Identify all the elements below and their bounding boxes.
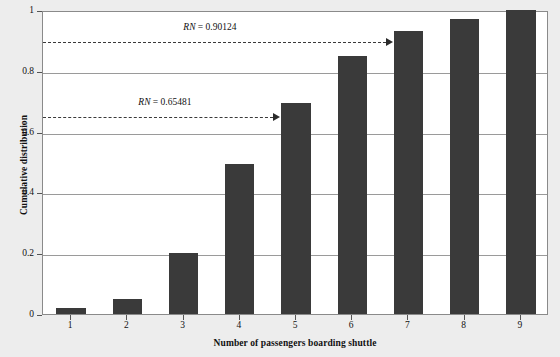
y-tick-label-0.4: 0.4 <box>4 187 34 197</box>
bar-2 <box>113 299 142 314</box>
plot-area: RN = 0.90124RN = 0.65481 <box>42 11 548 315</box>
rn-upper-label: RN = 0.90124 <box>183 22 236 32</box>
x-tick-label-3: 3 <box>163 320 203 330</box>
bar-9 <box>506 10 535 314</box>
bar-5 <box>281 103 310 314</box>
x-tick-label-7: 7 <box>387 320 427 330</box>
x-tick-label-9: 9 <box>500 320 540 330</box>
cumulative-distribution-chart: Cumulative distribution 00.20.40.60.81 R… <box>0 0 560 357</box>
bar-8 <box>450 19 479 314</box>
rn-lower-label: RN = 0.65481 <box>138 97 191 107</box>
x-tick-label-5: 5 <box>275 320 315 330</box>
y-tick-0 <box>37 315 42 316</box>
bar-1 <box>56 308 85 314</box>
y-tick-label-1: 1 <box>4 5 34 15</box>
bar-4 <box>225 164 254 314</box>
x-tick-label-4: 4 <box>219 320 259 330</box>
rn-lower-dashed-line <box>43 117 273 118</box>
x-tick-label-2: 2 <box>106 320 146 330</box>
bar-3 <box>169 253 198 314</box>
y-tick-label-0.2: 0.2 <box>4 248 34 258</box>
rn-upper-arrowhead-icon <box>386 38 393 46</box>
x-tick-label-6: 6 <box>331 320 371 330</box>
y-tick-label-0.8: 0.8 <box>4 66 34 76</box>
y-axis-title: Cumulative distribution <box>19 75 29 255</box>
x-tick-label-8: 8 <box>444 320 484 330</box>
x-tick-label-1: 1 <box>50 320 90 330</box>
bar-6 <box>338 56 367 314</box>
y-tick-label-0.6: 0.6 <box>4 127 34 137</box>
rn-lower-arrowhead-icon <box>273 113 280 121</box>
rn-upper-dashed-line <box>43 42 386 43</box>
bar-7 <box>394 31 423 314</box>
x-axis-title: Number of passengers boarding shuttle <box>42 338 548 348</box>
y-tick-label-0: 0 <box>4 309 34 319</box>
